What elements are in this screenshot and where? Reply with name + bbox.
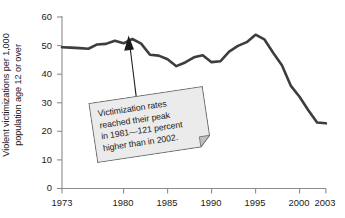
x-axis-ticks — [62, 189, 326, 194]
annotation-arrow — [124, 36, 137, 104]
y-axis-ticks — [57, 17, 62, 189]
violent-victimization-rate-chart: Violent victimizations per 1,000 populat… — [0, 0, 345, 218]
